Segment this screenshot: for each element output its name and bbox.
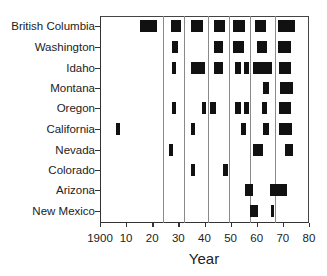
x-tick xyxy=(100,223,101,227)
interval-bar xyxy=(285,144,293,156)
x-tick xyxy=(205,223,206,227)
row-label: California xyxy=(46,123,95,135)
x-tick-label: 10 xyxy=(120,232,133,244)
y-tick xyxy=(95,129,100,130)
row-label: New Mexico xyxy=(32,205,95,217)
interval-bar xyxy=(253,144,263,156)
interval-bar xyxy=(140,20,157,32)
interval-bar xyxy=(116,123,120,135)
reference-line xyxy=(208,16,209,223)
interval-bar xyxy=(280,82,293,94)
x-tick xyxy=(257,223,258,227)
interval-bar xyxy=(172,41,179,53)
x-axis-title: Year xyxy=(189,250,219,267)
x-tick-label: 70 xyxy=(276,232,289,244)
reference-line xyxy=(184,16,185,223)
interval-bar xyxy=(241,123,246,135)
interval-bar xyxy=(191,20,203,32)
interval-bar xyxy=(263,82,268,94)
x-tick xyxy=(231,223,232,227)
interval-bar xyxy=(257,41,267,53)
interval-bar xyxy=(169,144,173,156)
row-label: Washington xyxy=(35,41,95,53)
interval-bar xyxy=(244,102,249,114)
y-tick xyxy=(95,190,100,191)
interval-bar xyxy=(171,20,181,32)
row-label: Montana xyxy=(50,82,95,94)
row-label: British Columbia xyxy=(11,20,95,32)
x-tick-label: 20 xyxy=(146,232,159,244)
y-tick xyxy=(95,108,100,109)
interval-bar xyxy=(279,123,292,135)
y-tick xyxy=(95,88,100,89)
reference-line xyxy=(229,16,230,223)
interval-bar xyxy=(210,102,217,114)
interval-bar xyxy=(279,102,291,114)
row-label: Colorado xyxy=(48,164,95,176)
x-tick-label: 60 xyxy=(250,232,263,244)
x-tick-label: 50 xyxy=(224,232,237,244)
interval-bar xyxy=(263,123,268,135)
interval-bar xyxy=(214,41,223,53)
row-label: Idaho xyxy=(66,62,95,74)
interval-bar xyxy=(253,62,273,74)
interval-bar xyxy=(214,62,223,74)
interval-bar xyxy=(270,184,287,196)
interval-bar xyxy=(233,20,245,32)
timeline-chart: British ColumbiaWashingtonIdahoMontanaOr… xyxy=(0,0,327,276)
x-tick-label: 80 xyxy=(303,232,316,244)
interval-bar xyxy=(202,102,206,114)
interval-bar xyxy=(262,102,267,114)
y-tick xyxy=(95,170,100,171)
interval-bar xyxy=(191,62,204,74)
interval-bar xyxy=(235,62,242,74)
interval-bar xyxy=(255,20,265,32)
x-tick xyxy=(283,223,284,227)
row-label: Oregon xyxy=(57,102,95,114)
interval-bar xyxy=(172,102,176,114)
interval-bar xyxy=(250,205,258,217)
interval-bar xyxy=(223,164,228,176)
interval-bar xyxy=(271,205,274,217)
y-tick xyxy=(95,68,100,69)
interval-bar xyxy=(172,62,176,74)
interval-bar xyxy=(191,123,195,135)
x-tick xyxy=(178,223,179,227)
interval-bar xyxy=(244,62,249,74)
interval-bar xyxy=(214,20,226,32)
interval-bar xyxy=(279,62,291,74)
interval-bar xyxy=(245,184,253,196)
x-tick-label: 30 xyxy=(172,232,185,244)
interval-bar xyxy=(233,41,243,53)
reference-line xyxy=(163,16,164,223)
x-tick xyxy=(309,223,310,227)
interval-bar xyxy=(278,41,291,53)
y-tick xyxy=(95,47,100,48)
interval-bar xyxy=(235,102,242,114)
x-tick xyxy=(152,223,153,227)
y-tick xyxy=(95,26,100,27)
y-tick xyxy=(95,150,100,151)
interval-bar xyxy=(191,164,195,176)
row-label: Arizona xyxy=(56,184,95,196)
x-tick-label: 1900 xyxy=(87,232,113,244)
x-tick-label: 40 xyxy=(198,232,211,244)
y-tick xyxy=(95,211,100,212)
interval-bar xyxy=(278,20,295,32)
row-label: Nevada xyxy=(55,144,95,156)
x-tick xyxy=(126,223,127,227)
